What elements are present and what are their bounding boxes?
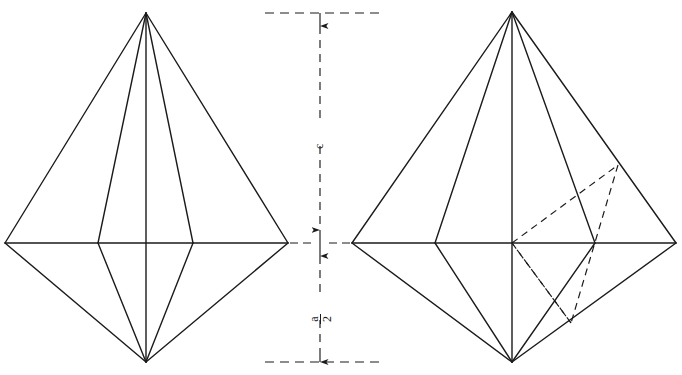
left-upper-inner-right-ridge — [146, 13, 193, 243]
diagram-canvas: c a 2 — [0, 0, 682, 375]
right-upper-left-edge — [352, 12, 512, 243]
dimension-label-lower-fraction: a 2 — [308, 314, 333, 324]
left-lower-right-edge — [146, 243, 288, 362]
right-upper-right-edge — [512, 12, 676, 243]
left-upper-right-edge — [146, 13, 288, 243]
right-lower-left-edge — [352, 243, 512, 362]
dimension-label-lower-denominator: 2 — [320, 314, 333, 324]
section-edge-center-down-to-lower — [512, 243, 571, 323]
left-bipyramid — [5, 13, 288, 362]
left-upper-left-edge — [5, 13, 146, 243]
right-upper-inner-right-ridge — [512, 12, 595, 243]
left-lower-inner-left-ridge — [98, 243, 146, 362]
dimension-label-lower: a 2 — [308, 290, 332, 324]
right-upper-inner-left-ridge — [435, 12, 512, 243]
left-upper-inner-left-ridge — [98, 13, 146, 243]
dimension-label-upper: c — [310, 115, 330, 149]
left-lower-inner-right-ridge — [146, 243, 193, 362]
dimension-label-lower-numerator: a — [308, 314, 320, 324]
right-lower-inner-left-ridge — [435, 243, 512, 362]
diagram-svg — [0, 0, 682, 375]
section-edge-center-to-upper-right — [512, 165, 618, 243]
right-bipyramid — [352, 12, 676, 362]
right-lower-right-edge — [512, 243, 676, 362]
dimension-label-upper-value: c — [313, 144, 325, 149]
dashed-section-plane — [512, 165, 618, 323]
left-lower-left-edge — [5, 243, 146, 362]
